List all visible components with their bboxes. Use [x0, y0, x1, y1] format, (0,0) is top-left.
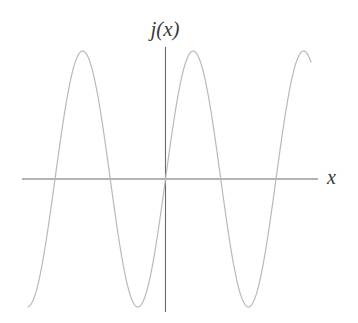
- x-axis-label: x: [327, 167, 336, 187]
- function-graph-figure: j(x) x: [0, 0, 358, 323]
- y-axis-label: j(x): [0, 19, 330, 40]
- axes-group: [22, 47, 318, 312]
- plot-canvas: [0, 0, 358, 323]
